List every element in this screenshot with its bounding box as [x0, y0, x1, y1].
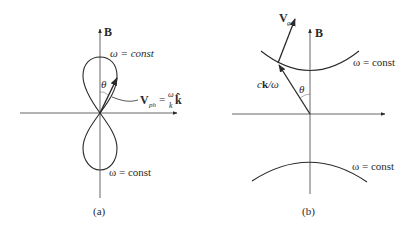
- b-axis-label-a: B: [104, 25, 112, 39]
- omega-const-upper-a-text: ω = const: [110, 47, 155, 59]
- diagram-canvas: B θ V ph = ω k k̂ ω = const ω = const (a…: [0, 0, 420, 232]
- vph-frac-den: k: [169, 101, 173, 110]
- wave-vector: [279, 65, 310, 114]
- caption-a: (a): [93, 205, 106, 218]
- caption-b: (b): [302, 205, 315, 218]
- vph-main: V: [140, 93, 149, 107]
- omega-const-lower-a-text: ω = const: [109, 166, 151, 178]
- b-axis-label-b: B: [315, 26, 323, 40]
- omega-const-lower-a: ω = const: [109, 166, 151, 178]
- vg-sub: g: [287, 19, 291, 27]
- theta-label-b: θ: [299, 83, 305, 95]
- panel-a: B θ V ph = ω k k̂ ω = const ω = const (a…: [20, 25, 182, 218]
- omega-const-upper-b-text: ω = const: [353, 56, 395, 68]
- vph-equals: =: [159, 93, 165, 105]
- omega-const-upper-b: ω = const: [353, 56, 395, 68]
- wv-rest: /ω: [267, 78, 279, 90]
- omega-const-lower-b-text: ω = const: [352, 160, 394, 172]
- theta-label-a: θ: [101, 78, 107, 90]
- lower-omega-curve: [252, 162, 367, 182]
- vph-unit: k̂: [175, 93, 182, 107]
- theta-arc-a: [100, 92, 108, 95]
- leader-line: [112, 97, 138, 101]
- panel-b: B θ V g ck/ω ω = const ω = const (b): [232, 11, 395, 218]
- vph-frac-num: ω: [168, 90, 174, 99]
- wave-vector-label: ck/ω: [257, 78, 279, 90]
- omega-const-lower-b: ω = const: [352, 160, 394, 172]
- omega-const-upper-a: ω = const: [110, 47, 155, 59]
- vph-sub: ph: [148, 101, 157, 109]
